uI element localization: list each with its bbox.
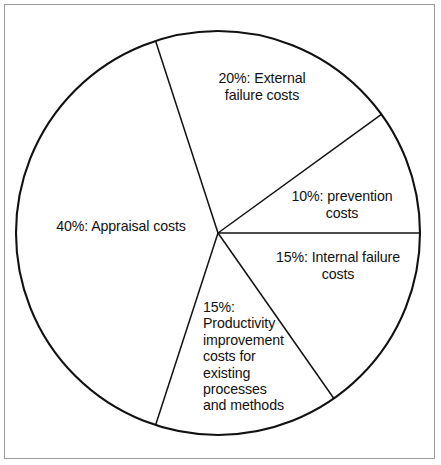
pie-slice-label-internal-failure-costs: 15%: Internal failure costs: [254, 249, 422, 283]
pie-slice-label-external-failure-costs: 20%: External failure costs: [182, 70, 342, 104]
pie-chart-figure: 20%: External failure costs 10%: prevent…: [0, 0, 441, 465]
pie-slice-label-prevention-costs: 10%: prevention costs: [262, 188, 422, 222]
pie-slice-label-appraisal-costs: 40%: Appraisal costs: [36, 218, 206, 235]
pie-slice-label-productivity-improvement-costs: 15%: Productivity improvement costs for …: [203, 299, 311, 414]
